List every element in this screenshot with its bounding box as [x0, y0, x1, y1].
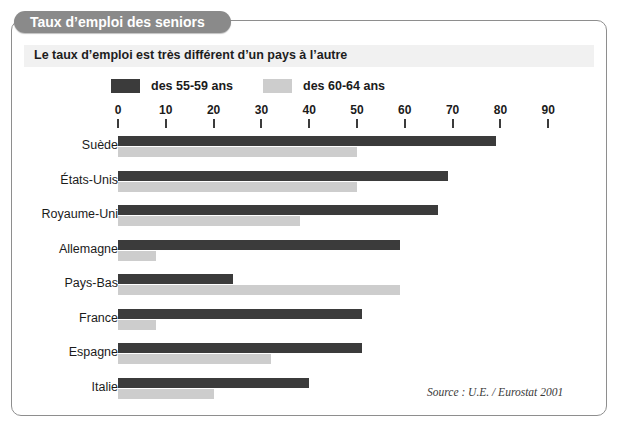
x-axis-tick-mark [308, 119, 310, 128]
source-note: Source : U.E. / Eurostat 2001 [427, 386, 563, 398]
x-axis-tick-label: 40 [303, 103, 316, 117]
x-axis-tick-mark [547, 119, 549, 128]
bar-55-59 [118, 136, 496, 146]
category-label: États-Unis [0, 173, 118, 187]
x-axis-tick-mark [260, 119, 262, 128]
x-axis-tick-mark [404, 119, 406, 128]
chart-row: Royaume-Uni [12, 203, 608, 235]
category-label: Allemagne [0, 242, 118, 256]
x-axis-tick-label: 30 [255, 103, 268, 117]
category-label: France [0, 311, 118, 325]
x-axis-tick-label: 10 [159, 103, 172, 117]
x-axis-tick-mark [452, 119, 454, 128]
x-axis-tick-mark [499, 119, 501, 128]
page-title: Taux d’emploi des seniors [14, 11, 231, 33]
x-axis-tick-label: 70 [446, 103, 459, 117]
x-axis-tick-label: 50 [350, 103, 363, 117]
chart-panel: Le taux d’emploi est très différent d’un… [11, 20, 607, 416]
bar-60-64 [118, 147, 357, 157]
x-axis-tick-label: 0 [115, 103, 122, 117]
category-label: Espagne [0, 345, 118, 359]
bar-60-64 [118, 285, 400, 295]
x-axis-tick-mark [117, 119, 119, 128]
x-axis-tick-mark [165, 119, 167, 128]
chart-row: Allemagne [12, 238, 608, 270]
bar-55-59 [118, 240, 400, 250]
x-axis-tick-label: 90 [542, 103, 555, 117]
plot-area: 0102030405060708090SuèdeÉtats-UnisRoyaum… [12, 21, 608, 417]
scan-top-text-fragment [60, 0, 600, 9]
bar-60-64 [118, 354, 271, 364]
bar-60-64 [118, 251, 156, 261]
bar-55-59 [118, 205, 438, 215]
chart-row: Suède [12, 134, 608, 166]
category-label: Italie [0, 380, 118, 394]
bar-55-59 [118, 171, 448, 181]
chart-row: Pays-Bas [12, 272, 608, 304]
x-axis-tick-mark [213, 119, 215, 128]
chart-row: États-Unis [12, 169, 608, 201]
bar-55-59 [118, 274, 233, 284]
bar-55-59 [118, 343, 362, 353]
chart-row: Espagne [12, 341, 608, 373]
category-label: Royaume-Uni [0, 207, 118, 221]
bar-60-64 [118, 182, 357, 192]
x-axis-tick-mark [356, 119, 358, 128]
bar-60-64 [118, 216, 300, 226]
x-axis-tick-label: 60 [398, 103, 411, 117]
bar-60-64 [118, 320, 156, 330]
category-label: Pays-Bas [0, 276, 118, 290]
bar-55-59 [118, 378, 309, 388]
category-label: Suède [0, 138, 118, 152]
bar-60-64 [118, 389, 214, 399]
chart-row: France [12, 307, 608, 339]
bar-55-59 [118, 309, 362, 319]
x-axis-tick-label: 20 [207, 103, 220, 117]
x-axis-tick-label: 80 [494, 103, 507, 117]
